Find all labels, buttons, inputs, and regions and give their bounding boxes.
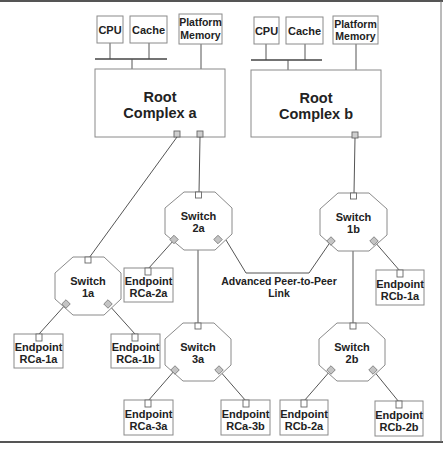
switch-3a-label-2: 3a: [192, 353, 205, 365]
endpoint-rca-3a-label-1: Endpoint: [125, 408, 173, 420]
peer-link-label-1: Advanced Peer-to-Peer: [221, 275, 337, 287]
link-3a-to-rca3a: [148, 370, 175, 401]
link-rcb-to-switch-1b: [354, 138, 355, 193]
root-complex-b-label-1: Root: [299, 90, 332, 106]
switch-3a[interactable]: Switch 3a: [165, 323, 231, 381]
endpoint-rca-1a[interactable]: Endpoint RCa-1a: [14, 334, 63, 368]
link-2b-to-rcb2a: [304, 370, 331, 401]
link-rca-to-switch-2a: [199, 137, 200, 193]
switch-1b-label-2: 1b: [347, 223, 360, 235]
endpoint-rca-1b-label-1: Endpoint: [112, 341, 160, 353]
switch-1a-label-2: 1a: [82, 287, 95, 299]
pcie-topology-diagram: CPU Cache Platform Memory Root Complex a…: [0, 0, 443, 452]
link-1b-to-rcb1a: [374, 241, 400, 271]
switch-1b-upstream-port: [351, 193, 357, 199]
cpu-a-label: CPU: [98, 24, 121, 36]
switch-1b-label-1: Switch: [336, 211, 372, 223]
endpoint-rcb-1a-port: [397, 270, 403, 277]
endpoint-rcb-1a[interactable]: Endpoint RCb-1a: [376, 270, 424, 305]
platform-memory-a-label-2: Memory: [180, 29, 220, 41]
endpoint-rca-2a-label-2: RCa-2a: [130, 287, 169, 299]
root-complex-a-port-1: [174, 131, 180, 137]
root-complex-a-label-2: Complex a: [123, 105, 197, 121]
endpoint-rca-1a-label-1: Endpoint: [15, 341, 63, 353]
advanced-peer-to-peer-link[interactable]: [226, 240, 331, 273]
endpoint-rcb-1a-label-2: RCb-1a: [381, 290, 420, 302]
root-complex-b-port: [352, 132, 358, 138]
switch-2a-label-2: 2a: [192, 222, 205, 234]
root-complex-a-group: CPU Cache Platform Memory Root Complex a: [95, 14, 225, 137]
endpoint-rcb-2a-label-1: Endpoint: [280, 408, 328, 420]
peer-link-label-2: Link: [268, 287, 290, 299]
endpoint-rca-3b-label-2: RCa-3b: [226, 420, 265, 432]
endpoint-rca-1b-port: [132, 334, 138, 341]
endpoint-rca-1a-label-2: RCa-1a: [20, 353, 59, 365]
platform-memory-a-label-1: Platform: [179, 16, 222, 28]
endpoint-rca-3b-port: [243, 400, 249, 407]
root-complex-a-port-2: [197, 131, 203, 137]
link-1a-to-rca1a: [39, 304, 66, 334]
switch-1b[interactable]: Switch 1b: [320, 193, 387, 251]
endpoint-rca-3a[interactable]: Endpoint RCa-3a: [124, 400, 173, 435]
endpoint-rcb-2b-port: [396, 401, 402, 408]
switch-2b[interactable]: Switch 2b: [319, 323, 385, 381]
switch-3a-upstream-port: [195, 323, 201, 329]
endpoint-rcb-2b-label-1: Endpoint: [375, 409, 423, 421]
link-3a-to-rca3b: [219, 370, 246, 401]
platform-memory-b-label-2: Memory: [335, 30, 375, 42]
root-complex-b-label-2: Complex b: [279, 106, 353, 122]
switch-2a-upstream-port: [196, 192, 202, 198]
endpoint-rca-3a-label-2: RCa-3a: [130, 420, 169, 432]
endpoint-rca-2a-label-1: Endpoint: [125, 275, 173, 287]
endpoint-rca-3b[interactable]: Endpoint RCa-3b: [221, 400, 270, 435]
endpoint-rcb-2b[interactable]: Endpoint RCb-2b: [375, 401, 423, 436]
root-complex-b-group: CPU Cache Platform Memory Root Complex b: [251, 16, 381, 138]
switch-3a-label-1: Switch: [180, 341, 216, 353]
switch-2b-label-2: 2b: [346, 353, 359, 365]
link-rca-to-switch-1a: [89, 137, 177, 258]
link-2a-to-rca2a: [148, 240, 174, 269]
link-1a-to-rca1b: [108, 304, 135, 334]
platform-memory-b-label-1: Platform: [334, 18, 377, 30]
switch-2b-label-1: Switch: [334, 341, 370, 353]
switch-1a[interactable]: Switch 1a: [55, 257, 121, 315]
endpoint-rca-1b[interactable]: Endpoint RCa-1b: [111, 334, 160, 368]
endpoint-rca-3a-port: [145, 400, 151, 407]
switch-2a[interactable]: Switch 2a: [165, 192, 232, 250]
link-2b-to-rcb2b: [373, 370, 399, 402]
switch-1a-upstream-port: [85, 257, 91, 263]
cpu-b-label: CPU: [255, 25, 278, 37]
cache-a-label: Cache: [132, 24, 165, 36]
root-complex-a-label-1: Root: [143, 89, 176, 105]
endpoint-rca-1b-label-2: RCa-1b: [116, 353, 155, 365]
endpoint-rcb-2a[interactable]: Endpoint RCb-2a: [280, 400, 328, 435]
switch-2a-label-1: Switch: [181, 210, 217, 222]
endpoint-rcb-2b-label-2: RCb-2b: [379, 421, 418, 433]
endpoint-rcb-2a-label-2: RCb-2a: [285, 420, 324, 432]
endpoint-rca-2a[interactable]: Endpoint RCa-2a: [124, 268, 173, 302]
endpoint-rca-1a-port: [36, 334, 42, 341]
switch-2b-upstream-port: [350, 323, 356, 329]
endpoint-rcb-2a-port: [301, 400, 307, 407]
endpoint-rca-2a-port: [145, 268, 151, 275]
endpoint-rca-3b-label-1: Endpoint: [222, 408, 270, 420]
endpoint-rcb-1a-label-1: Endpoint: [376, 278, 424, 290]
cache-b-label: Cache: [288, 25, 321, 37]
switch-1a-label-1: Switch: [70, 275, 106, 287]
